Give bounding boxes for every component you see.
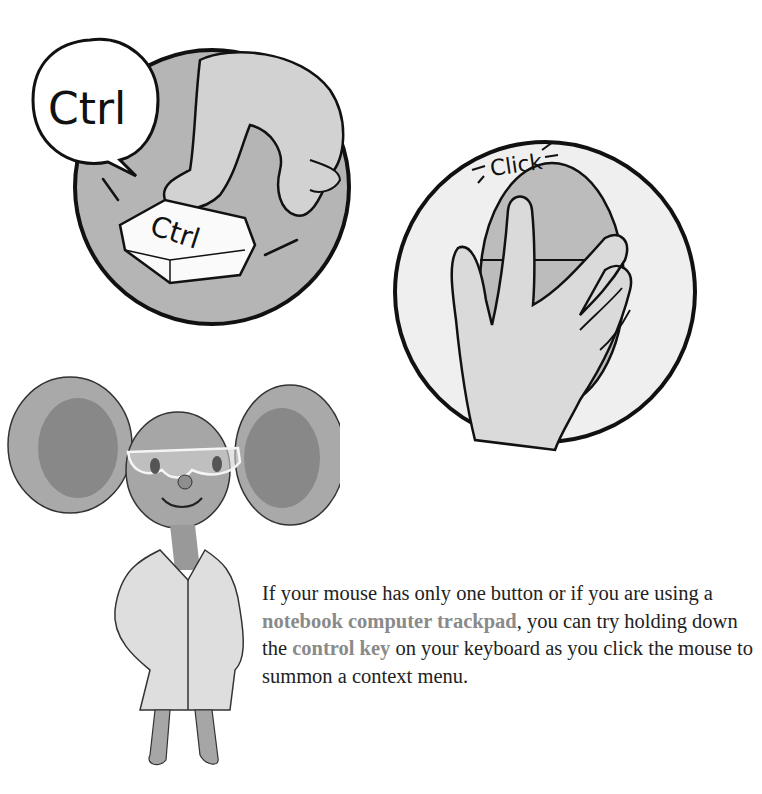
caption-text-1: If your mouse has only one button or if … — [262, 582, 713, 604]
highlight-trackpad: notebook computer trackpad — [262, 610, 517, 632]
keyboard-panel: Ctrl Ctrl — [0, 0, 380, 340]
highlight-control-key: control key — [292, 637, 390, 659]
mouse-click-illustration: Click — [380, 120, 720, 460]
caption-paragraph: If your mouse has only one button or if … — [262, 580, 762, 690]
ctrl-key-illustration: Ctrl Ctrl — [0, 0, 380, 340]
mouse-click-panel: Click — [380, 120, 720, 460]
speech-bubble-text: Ctrl — [48, 83, 126, 134]
